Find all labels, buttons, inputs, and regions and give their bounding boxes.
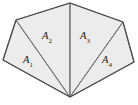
polygon-figure: A1 A2 A3 A4: [0, 0, 138, 105]
figure-container: A1 A2 A3 A4: [0, 0, 138, 105]
region-faces: [3, 3, 134, 97]
